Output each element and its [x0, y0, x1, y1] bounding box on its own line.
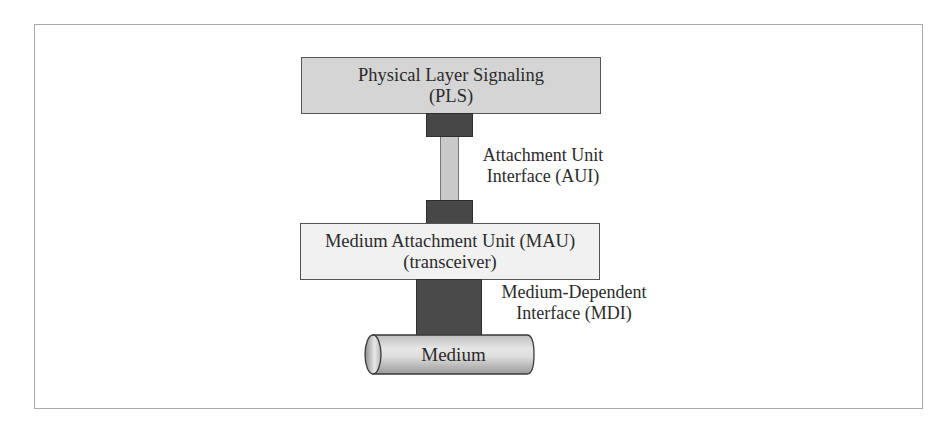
aui-label: Attachment Unit Interface (AUI): [470, 145, 616, 187]
mdi-label-line2: Interface (MDI): [488, 303, 660, 324]
mau-label-line2: (transceiver): [403, 252, 496, 273]
aui-connector-top: [426, 113, 473, 137]
pls-label-line1: Physical Layer Signaling: [358, 65, 544, 86]
mdi-label: Medium-Dependent Interface (MDI): [488, 282, 660, 324]
mau-box: Medium Attachment Unit (MAU) (transceive…: [300, 223, 600, 280]
medium-label: Medium: [364, 334, 535, 375]
pls-label-line2: (PLS): [429, 86, 473, 107]
aui-connector-bottom: [426, 200, 473, 224]
aui-label-line1: Attachment Unit: [470, 145, 616, 166]
mau-label-line1: Medium Attachment Unit (MAU): [325, 231, 575, 252]
pls-box: Physical Layer Signaling (PLS): [301, 57, 601, 114]
aui-cable: [440, 137, 459, 200]
mdi-connector: [416, 279, 482, 336]
mdi-label-line1: Medium-Dependent: [488, 282, 660, 303]
aui-label-line2: Interface (AUI): [470, 166, 616, 187]
